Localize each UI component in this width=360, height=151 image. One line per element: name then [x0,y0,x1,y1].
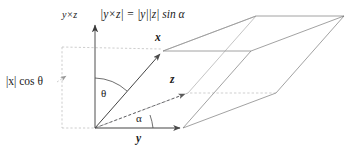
angle-theta-label: θ [101,88,106,99]
vector-diagram-canvas: y×z |y×z| = |y||z| sin α |x| cos θ x z y… [0,0,360,151]
base-edge-y-yz [183,93,276,128]
angle-theta-text: θ [101,87,106,99]
vector-y-label-text: y [136,132,141,144]
vector-x-label-text: x [155,31,161,43]
angle-alpha-label: α [136,113,142,124]
cross-product-formula: |y×z| = |y||z| sin α [100,9,185,21]
parallelepiped-side-edges [183,16,344,128]
formula-text: |y×z| = |y||z| sin α [100,8,185,20]
edge-y-to-ytop [183,51,251,128]
projection-length-text: |x| cos θ [6,75,43,87]
edge-yz-to-yztop [276,16,344,93]
angle-theta-arc [95,78,127,91]
projection-guides [57,47,161,128]
parallelepiped-top-face [163,16,344,51]
vector-z-label: z [170,74,174,86]
projection-length-label: |x| cos θ [6,76,43,88]
guide-horizontal-top [62,47,161,49]
angle-alpha-text: α [136,112,142,124]
vector-x-label: x [155,32,161,44]
parallelepiped-base-face [95,93,276,128]
edge-xtop-ztop [163,16,256,51]
parallelepiped-upper-rear [163,16,256,51]
edge-z-to-ztop [188,16,256,93]
cross-axis-label-text: y×z [62,9,77,20]
angle-arcs [95,78,153,128]
vector-z-label-text: z [170,73,174,85]
vector-y-label: y [136,133,141,145]
parallelepiped-figure [0,0,360,151]
guide-bracket-pointer [57,76,66,82]
angle-alpha-arc [150,115,153,128]
cross-axis-label: y×z [62,10,77,20]
top-face-outline [163,16,344,51]
